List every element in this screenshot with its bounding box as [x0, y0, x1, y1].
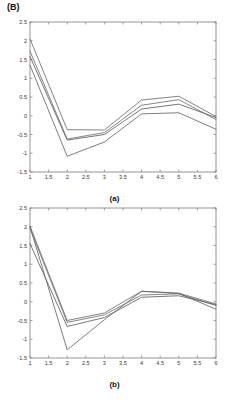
- subfigure-b-label: (b): [0, 380, 229, 389]
- x-tick-label: 5.5: [194, 360, 202, 365]
- y-tick-label: -1: [22, 150, 27, 156]
- x-tick-label: 2: [66, 174, 69, 179]
- x-tick-label: 1: [28, 174, 31, 179]
- y-tick-label: 0.5: [19, 94, 27, 100]
- x-tick-label: 2: [66, 360, 69, 365]
- y-tick-label: 1.5: [19, 57, 27, 63]
- series-line-series-4: [30, 227, 216, 350]
- y-tick-label: -0.5: [17, 132, 27, 138]
- plot-frame: [30, 22, 216, 172]
- series-line-series-2: [30, 51, 216, 139]
- series-line-series-2: [30, 228, 216, 322]
- y-tick-label: 0.5: [19, 280, 27, 286]
- series-line-series-3: [30, 244, 216, 327]
- x-tick-label: 3.5: [119, 360, 127, 365]
- plot-frame: [30, 208, 216, 358]
- x-tick-label: 3: [103, 174, 106, 179]
- y-tick-label: 2: [24, 224, 27, 230]
- y-tick-label: 2.5: [19, 205, 27, 211]
- y-tick-label: 1.5: [19, 243, 27, 249]
- y-tick-label: -1.5: [17, 169, 27, 175]
- x-tick-label: 5.5: [194, 174, 202, 179]
- x-tick-label: 3: [103, 360, 106, 365]
- x-tick-label: 6: [214, 360, 217, 365]
- panel-letter-B: (B): [7, 3, 20, 12]
- x-tick-label: 6: [214, 174, 217, 179]
- y-tick-label: 1: [24, 261, 27, 267]
- figure-panel-B: (B) 11.522.533.544.555.56-1.5-1-0.500.51…: [0, 0, 229, 406]
- line-chart-a: 11.522.533.544.555.56-1.5-1-0.500.511.52…: [0, 14, 229, 179]
- x-tick-label: 2.5: [82, 174, 90, 179]
- x-tick-label: 4.5: [156, 360, 164, 365]
- subfigure-a: 11.522.533.544.555.56-1.5-1-0.500.511.52…: [0, 14, 229, 206]
- x-tick-label: 5: [177, 360, 180, 365]
- y-tick-label: 1: [24, 75, 27, 81]
- x-tick-label: 4.5: [156, 174, 164, 179]
- y-tick-label: 0: [24, 113, 27, 119]
- line-chart-b: 11.522.533.544.555.56-1.5-1-0.500.511.52…: [0, 200, 229, 365]
- x-tick-label: 1: [28, 360, 31, 365]
- y-tick-label: 2: [24, 38, 27, 44]
- subfigure-b: 11.522.533.544.555.56-1.5-1-0.500.511.52…: [0, 200, 229, 400]
- y-tick-label: -0.5: [17, 318, 27, 324]
- series-line-series-4: [30, 65, 216, 156]
- y-tick-label: 2.5: [19, 19, 27, 25]
- x-tick-label: 1.5: [45, 360, 53, 365]
- y-tick-label: -1: [22, 336, 27, 342]
- x-tick-label: 3.5: [119, 174, 127, 179]
- y-tick-label: 0: [24, 299, 27, 305]
- x-tick-label: 4: [140, 174, 143, 179]
- x-tick-label: 5: [177, 174, 180, 179]
- y-tick-label: -1.5: [17, 355, 27, 361]
- x-tick-label: 2.5: [82, 360, 90, 365]
- plot-b: 11.522.533.544.555.56-1.5-1-0.500.511.52…: [0, 200, 229, 365]
- x-tick-label: 4: [140, 360, 143, 365]
- x-tick-label: 1.5: [45, 174, 53, 179]
- plot-a: 11.522.533.544.555.56-1.5-1-0.500.511.52…: [0, 14, 229, 179]
